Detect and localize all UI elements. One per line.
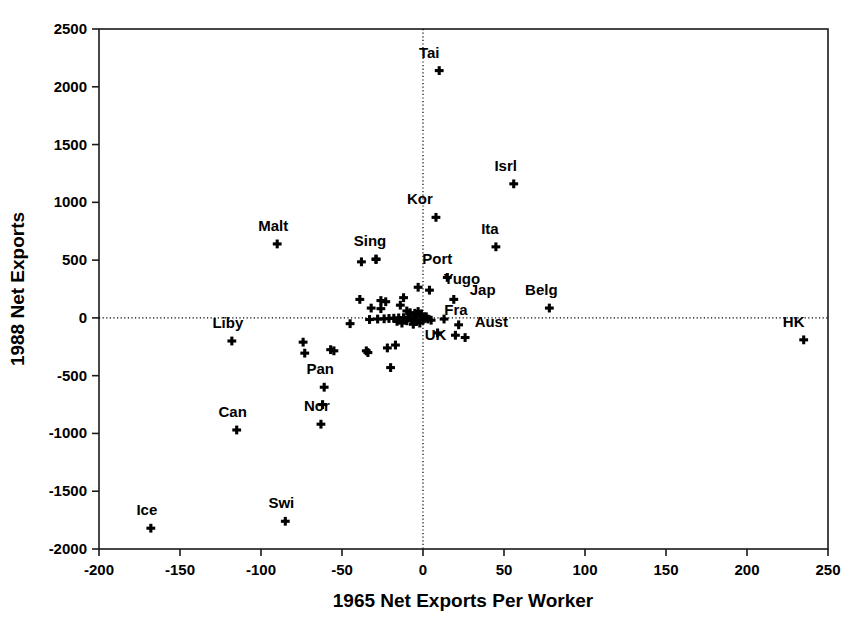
x-tick-label: -200 [84,561,114,578]
data-point-label: Belg [525,281,558,298]
data-point-label: Nor [304,397,330,414]
y-tick-label: 2000 [54,78,87,95]
chart-canvas: -200-150-100-50050100150200250 -2000-150… [0,0,866,628]
data-point-label: Ita [481,220,499,237]
data-point-label: Liby [212,314,243,331]
data-point-label: Aust [475,313,508,330]
y-axis-title: 1988 Net Exports [7,212,28,366]
y-tick-label: 500 [62,251,87,268]
y-tick-label: -500 [57,367,87,384]
data-point-label: Ice [136,501,157,518]
data-point-label: Isrl [494,157,517,174]
x-tick-label: 150 [653,561,678,578]
x-tick-label: -150 [165,561,195,578]
data-point-label: Swi [268,494,294,511]
data-point-label: Fra [444,301,468,318]
x-tick-label: 100 [572,561,597,578]
y-tick-label: -2000 [49,540,87,557]
data-point-label: Sing [354,232,387,249]
y-tick-label: 1000 [54,193,87,210]
plot-background [0,0,866,628]
data-point-label: Tai [419,44,440,61]
x-tick-label: 0 [419,561,427,578]
data-point-label: Kor [407,190,433,207]
x-tick-label: -50 [331,561,353,578]
data-point-label: Can [219,403,247,420]
data-point-label: Pan [306,360,334,377]
y-tick-label: -1000 [49,424,87,441]
data-point-label: HK [783,313,805,330]
x-tick-label: 250 [815,561,840,578]
x-tick-label: 50 [496,561,513,578]
data-point-label: UK [425,326,447,343]
y-tick-label: -1500 [49,482,87,499]
data-point-label: Jap [470,281,496,298]
x-axis-title: 1965 Net Exports Per Worker [333,590,594,611]
y-tick-label: 0 [79,309,87,326]
data-point-label: Malt [258,217,288,234]
scatter-plot-figure: -200-150-100-50050100150200250 -2000-150… [0,0,866,628]
y-tick-label: 2500 [54,20,87,37]
y-tick-label: 1500 [54,136,87,153]
x-tick-label: -100 [246,561,276,578]
x-tick-label: 200 [734,561,759,578]
data-point-label: Port [422,250,452,267]
